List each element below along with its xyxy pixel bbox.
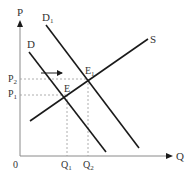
origin-label: 0 (13, 159, 18, 170)
demand-curve-d (29, 52, 106, 152)
price-tick-p2: P2 (8, 73, 18, 86)
curve-label-s: S (150, 33, 156, 45)
point-label-e1: E1 (85, 65, 95, 78)
supply-curve-s (30, 39, 148, 121)
x-axis-label: Q (176, 150, 184, 162)
quantity-tick-q2: Q2 (83, 159, 94, 171)
guide-lines (20, 79, 88, 156)
curve-label-d: D (27, 38, 35, 50)
curve-label-d1: D1 (42, 11, 54, 25)
y-axis-label: P (17, 6, 23, 18)
quantity-tick-q1: Q1 (61, 159, 72, 171)
demand-curve-d1 (46, 25, 139, 148)
point-label-e: E (64, 83, 70, 94)
supply-demand-diagram: P Q 0 D D1 S E E1 P2 P1 Q1 Q2 (0, 0, 191, 171)
y-axis-arrow-icon (17, 20, 23, 27)
price-tick-p1: P1 (8, 88, 18, 101)
y-axis (17, 20, 23, 156)
x-axis (20, 153, 173, 159)
x-axis-arrow-icon (166, 153, 173, 159)
